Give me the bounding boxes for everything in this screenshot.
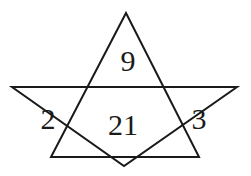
region-label-top: 9 bbox=[121, 46, 136, 76]
region-label-left: 2 bbox=[41, 104, 56, 134]
figure-canvas: 9 2 21 3 bbox=[0, 0, 251, 176]
triangles-diagram bbox=[0, 0, 251, 176]
region-label-right: 3 bbox=[192, 104, 207, 134]
region-label-center: 21 bbox=[108, 110, 138, 140]
